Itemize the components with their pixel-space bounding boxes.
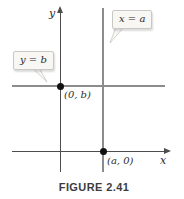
callout-x-equals-a: x = a [112,10,152,29]
figure-caption: FIGURE 2.41 [0,181,184,193]
y-axis [60,12,61,172]
y-axis-label: y [49,8,55,19]
point-label-0-b: (0, b) [64,90,91,100]
line-y-equals-b [12,85,165,87]
y-axis-arrowhead-icon [57,6,63,13]
x-axis-label: x [160,155,166,166]
point-label-a-0: (a, 0) [107,156,133,166]
callout-y-equals-b: y = b [13,51,54,70]
point-marker-0-b [57,83,64,90]
x-axis [12,151,166,152]
point-marker-a-0 [100,148,107,155]
figure-2-41: y x (0, b) (a, 0) x = a y = b FIGURE 2.4… [0,0,184,199]
